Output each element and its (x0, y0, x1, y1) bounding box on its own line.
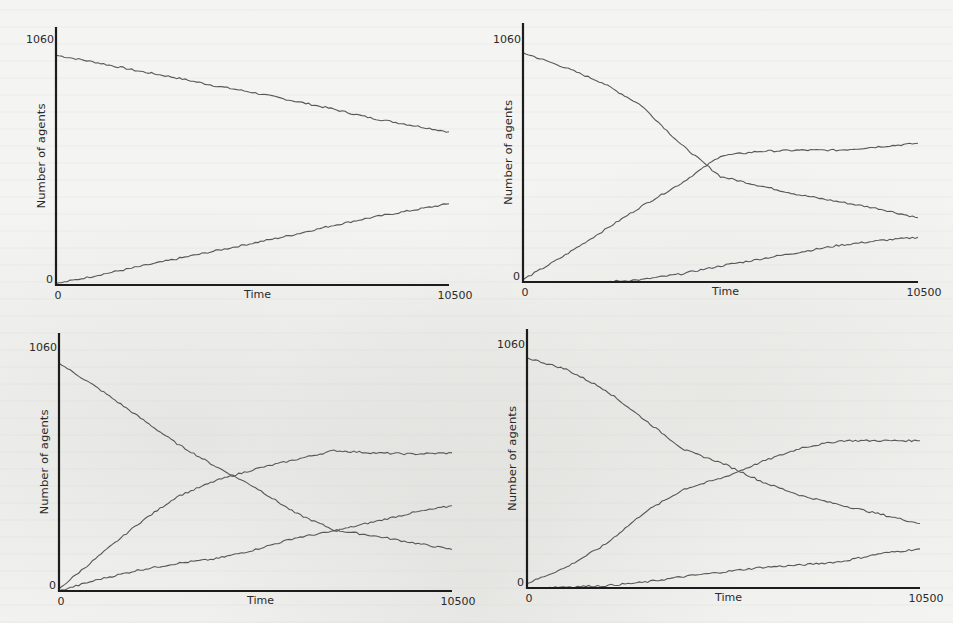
line-series-1 (56, 55, 449, 132)
y-axis-label: Number of agents (38, 409, 51, 514)
x-tick-label-max: 10500 (909, 592, 944, 605)
y-tick-label-min: 0 (49, 579, 56, 592)
x-tick-label-min: 0 (58, 595, 65, 608)
y-tick-label-min: 0 (46, 273, 53, 286)
x-tick-label-max: 10500 (907, 286, 942, 299)
line-series-2 (527, 440, 920, 584)
line-series-1 (523, 53, 918, 218)
chart-panel-bottom-left: 10600010500TimeNumber of agents (29, 333, 476, 608)
y-tick-label-min: 0 (517, 576, 524, 589)
line-series-3 (527, 549, 920, 588)
y-tick-label-min: 0 (513, 270, 520, 283)
line-series-1 (59, 363, 452, 549)
figure-canvas: 10600010500TimeNumber of agents106000105… (0, 0, 953, 623)
x-tick-label-min: 0 (526, 592, 533, 605)
x-axis-label: Time (246, 594, 274, 607)
x-tick-label-max: 10500 (441, 595, 476, 608)
chart-panel-bottom-right: 10600010500TimeNumber of agents (497, 329, 944, 605)
chart-panel-top-right: 10600010500TimeNumber of agents (493, 23, 942, 299)
x-axis-label: Time (243, 288, 271, 301)
line-series-3 (59, 506, 452, 591)
x-tick-label-max: 10500 (438, 289, 473, 302)
y-axis-label: Number of agents (502, 100, 515, 205)
y-axis-label: Number of agents (35, 103, 48, 208)
line-series-2 (59, 450, 452, 589)
y-tick-label-max: 1060 (497, 338, 525, 351)
y-tick-label-max: 1060 (493, 33, 521, 46)
x-axis-label: Time (711, 285, 739, 298)
x-tick-label-min: 0 (55, 289, 62, 302)
chart-panel-top-left: 10600010500TimeNumber of agents (26, 27, 473, 302)
y-tick-label-max: 1060 (29, 341, 57, 354)
x-axis-label: Time (714, 591, 742, 604)
line-series-2 (523, 143, 918, 280)
y-axis-label: Number of agents (506, 406, 519, 511)
line-series-2 (56, 204, 449, 284)
x-tick-label-min: 0 (522, 286, 529, 299)
y-tick-label-max: 1060 (26, 33, 54, 46)
